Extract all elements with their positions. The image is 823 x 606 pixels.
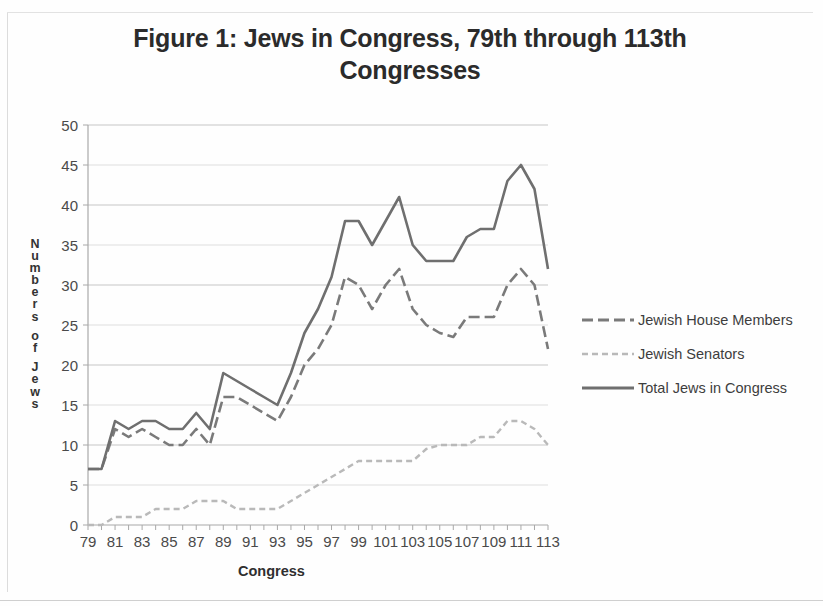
x-axis-tick-label: 101 (371, 533, 401, 550)
y-axis-title-letter: w (27, 386, 43, 398)
x-axis-tick-label: 93 (262, 533, 292, 550)
x-axis-tick-label: 107 (452, 533, 482, 550)
y-axis-title-letter: s (27, 398, 43, 410)
x-axis-tick-label: 79 (73, 533, 103, 550)
page-border-left (7, 12, 8, 592)
legend-item: Jewish House Members (582, 303, 817, 337)
x-axis-tick-label: 99 (344, 533, 374, 550)
x-axis-tick-label: 103 (398, 533, 428, 550)
y-axis-tick-label: 35 (44, 238, 78, 253)
legend-key-icon (582, 348, 634, 360)
legend-item: Jewish Senators (582, 337, 817, 371)
x-axis-tick-label: 95 (289, 533, 319, 550)
y-axis-tick-label: 40 (44, 198, 78, 213)
legend-key-icon (582, 314, 634, 326)
x-axis-tick-label: 81 (100, 533, 130, 550)
legend-key-icon (582, 382, 634, 394)
y-axis-tick-label: 15 (44, 398, 78, 413)
figure-title: Figure 1: Jews in Congress, 79th through… (60, 22, 760, 86)
y-axis-title-letter: e (27, 373, 43, 385)
x-axis-tick-label: 85 (154, 533, 184, 550)
figure-page: Figure 1: Jews in Congress, 79th through… (0, 0, 823, 606)
chart-svg (88, 125, 548, 525)
y-axis-tick-label: 25 (44, 318, 78, 333)
legend-item: Total Jews in Congress (582, 371, 817, 405)
y-axis-title-letter: r (27, 298, 43, 310)
page-border-bottom (0, 600, 823, 601)
x-axis-tick-label: 97 (317, 533, 347, 550)
y-axis-title: Numbers of Jews (27, 238, 43, 410)
y-axis-tick-label: 5 (44, 478, 78, 493)
y-axis-tick-label: 20 (44, 358, 78, 373)
x-axis-tick-label: 111 (506, 533, 536, 550)
legend-label: Jewish Senators (634, 346, 744, 362)
chart-legend: Jewish House MembersJewish SenatorsTotal… (582, 303, 817, 405)
x-axis-tick-label: 87 (181, 533, 211, 550)
y-axis-tick-label: 45 (44, 158, 78, 173)
x-axis-tick-label: 89 (208, 533, 238, 550)
legend-label: Total Jews in Congress (634, 380, 787, 396)
y-axis-tick-label: 30 (44, 278, 78, 293)
x-axis-tick-label: 113 (533, 533, 563, 550)
y-axis-tick-label: 10 (44, 438, 78, 453)
y-axis-tick-label: 50 (44, 118, 78, 133)
x-axis-tick-label: 109 (479, 533, 509, 550)
page-border-top (7, 12, 813, 13)
y-axis-title-letter: s (27, 311, 43, 323)
y-axis-title-letter: N (27, 238, 43, 250)
series-line-1 (88, 269, 548, 469)
plot-area (88, 125, 548, 525)
x-axis-tick-label: 105 (425, 533, 455, 550)
y-axis-tick-label: 0 (44, 518, 78, 533)
x-axis-tick-label: 91 (235, 533, 265, 550)
legend-label: Jewish House Members (634, 312, 793, 328)
x-axis-tick-label: 83 (127, 533, 157, 550)
x-axis-title: Congress (238, 563, 305, 579)
